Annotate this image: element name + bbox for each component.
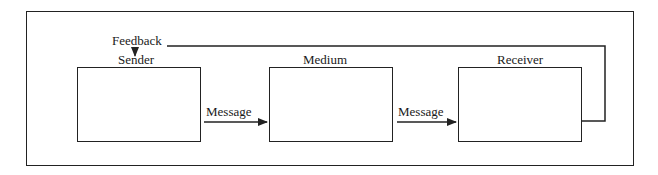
sender-box — [77, 67, 201, 142]
receiver-label: Receiver — [497, 53, 543, 66]
feedback-label: Feedback — [112, 34, 162, 47]
medium-label: Medium — [303, 53, 347, 66]
message-label-2: Message — [398, 105, 444, 118]
medium-box — [269, 67, 393, 142]
sender-label: Sender — [118, 53, 154, 66]
receiver-box — [458, 67, 582, 142]
message-label-1: Message — [206, 105, 252, 118]
